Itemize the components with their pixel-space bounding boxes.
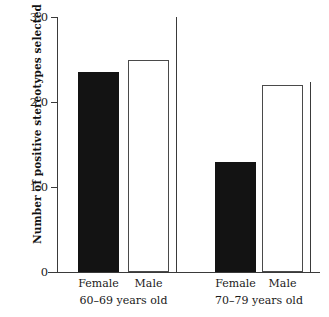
bar-category-label: Male <box>135 277 163 290</box>
bar-category-label: Female <box>215 277 256 290</box>
bar-female-group-1 <box>78 72 119 272</box>
y-tick-label: 3.0 <box>30 10 48 24</box>
y-tick-mark <box>51 272 58 273</box>
group-separator-1 <box>176 17 177 272</box>
bar-male-group-2 <box>262 85 303 272</box>
group-separator-2 <box>310 82 311 272</box>
y-tick-label: 0 <box>41 265 48 279</box>
y-tick-mark <box>51 187 58 188</box>
bar-male-group-1 <box>128 60 169 273</box>
group-label-2: 70–79 years old <box>215 294 303 307</box>
plot-area: 3.02.01.00 <box>57 17 319 272</box>
bar-female-group-2 <box>215 162 256 273</box>
y-tick-label: 1.0 <box>30 180 48 194</box>
y-tick-mark <box>51 102 58 103</box>
x-axis-line <box>48 272 320 273</box>
bar-chart-figure: Number of positive stereotypes selected … <box>0 0 329 317</box>
y-axis-title: Number of positive stereotypes selected <box>31 0 43 249</box>
bar-category-label: Male <box>269 277 297 290</box>
y-axis-line <box>57 17 58 273</box>
y-tick-label: 2.0 <box>30 95 48 109</box>
y-tick-mark <box>51 17 58 18</box>
bar-category-label: Female <box>78 277 119 290</box>
group-label-1: 60–69 years old <box>80 294 168 307</box>
